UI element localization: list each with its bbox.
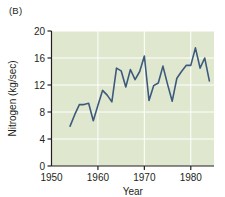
x-tick-label: 1950 [40,172,63,183]
x-tick-label: 1960 [87,172,110,183]
y-tick-label: 16 [34,53,46,64]
y-axis-title: Nitrogen (kg/sec) [7,60,18,136]
figure-panel-b: (B) 048121620 1950196019701980 Nitrogen … [0,0,225,197]
nitrogen-vs-year-line-chart: 048121620 1950196019701980 Nitrogen (kg/… [0,0,225,197]
y-tick-label: 8 [39,107,45,118]
y-tick-label: 20 [34,26,46,37]
y-tick-label: 4 [39,134,45,145]
plot-area-background [52,31,215,166]
x-tick-label: 1970 [133,172,156,183]
x-axis-ticks: 1950196019701980 [40,166,202,183]
x-axis-title: Year [123,186,144,197]
x-tick-label: 1980 [180,172,203,183]
y-tick-label: 0 [39,161,45,172]
y-tick-label: 12 [34,80,46,91]
y-axis-ticks: 048121620 [34,26,52,172]
